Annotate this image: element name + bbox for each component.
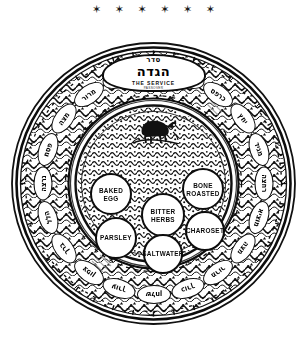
bowl-label: PARSLEY [100, 234, 132, 242]
cartouche-text: ברך [57, 241, 71, 256]
bowl-bitter-herbs[interactable]: BITTER HERBS [141, 193, 185, 237]
bowl-saltwater[interactable]: SALTWATER [143, 234, 183, 274]
bowl-label: BITTER HERBS [151, 207, 176, 224]
cartouche-text: צפון [81, 266, 97, 281]
bowl-bone-roasted[interactable]: BONE ROASTED [182, 168, 224, 210]
cartouche-text: כורך [180, 283, 196, 295]
cartouche-text: מרור [210, 265, 227, 281]
banner-cartouche: סדר הגדה THE SERVICE PASSOVER [102, 54, 206, 92]
banner-hebrew-small: סדר [146, 56, 161, 64]
illustration-canvas: ✶ ✶ ✶ ✶ ✶ ✶ [0, 0, 307, 337]
cartouche-text: מגיד [253, 141, 265, 157]
banner-english-subtitle: PASSOVER [144, 86, 164, 90]
star-rule-ornament: ✶ ✶ ✶ ✶ ✶ ✶ [0, 4, 307, 15]
lamb-shankbone-motif [129, 110, 181, 144]
bowl-charoset[interactable]: CHAROSET [185, 211, 225, 251]
bowl-label: BAKED EGG [99, 186, 123, 203]
cartouche-16: נרצה [34, 167, 53, 201]
cartouche-text: מצה [57, 110, 72, 126]
cartouche-text: מוציא [252, 207, 265, 227]
cartouche-text: פסח [42, 141, 54, 157]
seder-plate: קדשורחץכרפסיחץמגידרחצהמוציאמצהמרורכורךשל… [11, 42, 296, 325]
cartouche-text: הלל [43, 210, 55, 225]
cartouche-text: יחץ [236, 112, 249, 126]
banner-hebrew-main: הגדה [137, 65, 170, 78]
bowl-label: BONE ROASTED [186, 181, 219, 198]
cartouche-text: רחצה [260, 174, 268, 192]
bowl-parsley[interactable]: PARSLEY [95, 217, 137, 259]
cartouche-text: כרפס [209, 86, 228, 103]
cartouche-6: רחצה [255, 167, 274, 201]
cartouche-text: מרור [80, 86, 97, 102]
bowl-label: SALTWATER [142, 250, 184, 258]
bowl-label: CHAROSET [186, 227, 224, 235]
bowl-baked-egg[interactable]: BAKED EGG [90, 173, 132, 215]
cartouche-text: עורך [111, 282, 128, 294]
cartouche-text: מצה [235, 240, 250, 256]
cartouche-11: שלחן [137, 285, 171, 304]
cartouche-text: שלחן [145, 290, 162, 298]
cartouche-text: נרצה [39, 175, 47, 192]
